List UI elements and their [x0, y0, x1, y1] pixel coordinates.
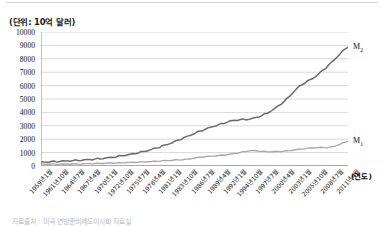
- series-line-m2: [41, 47, 348, 162]
- y-axis-tick-labels: 0100020003000400050006000700080009000100…: [0, 32, 38, 166]
- gridlines: [41, 32, 348, 166]
- series-label-m2-sub: 2: [360, 47, 363, 53]
- y-axis-tick-label: 8000: [20, 54, 35, 63]
- y-axis-tick-label: 3000: [20, 121, 35, 130]
- y-axis-tick-label: 9000: [20, 41, 35, 50]
- top-divider: [6, 2, 378, 3]
- y-axis-tick-label: 4000: [20, 108, 35, 117]
- source-footnote: 자료출처 : 미국 연방준비제도이사회 자료실: [12, 216, 131, 226]
- y-axis-tick-label: 7000: [20, 68, 35, 77]
- x-axis-title: (연도): [351, 170, 372, 181]
- x-axis-tick-labels: 1959년1월1961년10월1964년7월1967년4월1970년1월1972…: [0, 167, 384, 215]
- y-axis-unit-label: (단위: 10억 달러): [9, 15, 75, 27]
- plot-area: [41, 32, 348, 166]
- chart-svg: [41, 32, 348, 166]
- y-axis-tick-label: 6000: [20, 81, 35, 90]
- chart-figure: (단위: 10억 달러) 010002000300040005000600070…: [0, 0, 384, 226]
- series-label-m2: M2: [353, 42, 363, 53]
- series-label-m1: M1: [353, 136, 363, 147]
- y-axis-tick-label: 2000: [20, 135, 35, 144]
- y-axis-tick-label: 5000: [20, 95, 35, 104]
- y-axis-tick-label: 10000: [16, 28, 35, 37]
- y-axis-tick-label: 1000: [20, 148, 35, 157]
- series-label-m1-sub: 1: [360, 141, 363, 147]
